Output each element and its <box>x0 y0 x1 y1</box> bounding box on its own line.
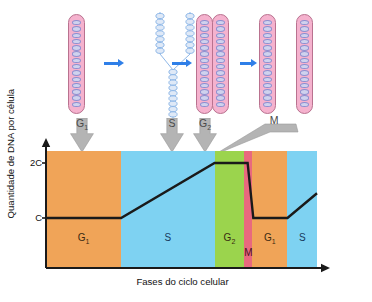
chromosome-g1 <box>68 14 85 114</box>
dna-bead <box>200 64 209 69</box>
dna-helix <box>72 20 81 108</box>
dna-bead <box>300 20 309 25</box>
dna-bead <box>200 26 209 31</box>
dna-bead <box>263 45 272 50</box>
dna-bead <box>200 70 209 75</box>
dna-bead <box>200 51 209 56</box>
dna-bead <box>300 102 309 107</box>
chromosome-m-b <box>296 14 313 114</box>
dna-bead <box>72 51 81 56</box>
dna-bead <box>263 89 272 94</box>
band-label-band-g2: G2 <box>213 232 245 245</box>
dna-bead <box>216 51 225 56</box>
dna-bead <box>216 70 225 75</box>
y-tick-label-0: 2C <box>18 157 42 168</box>
dna-bead <box>200 77 209 82</box>
y-tick-label-1: C <box>18 212 42 223</box>
pointer-label-g1-chromosome: G1 <box>68 117 96 131</box>
dna-bead <box>263 39 272 44</box>
dna-bead <box>263 33 272 38</box>
dna-bead <box>200 39 209 44</box>
dna-bead <box>72 58 81 63</box>
band-s-second <box>287 151 317 268</box>
band-label-band-m: M <box>232 247 264 258</box>
dna-bead <box>300 77 309 82</box>
dna-bead <box>216 77 225 82</box>
dna-bead <box>216 95 225 100</box>
dna-bead <box>263 58 272 63</box>
dna-helix <box>263 20 272 108</box>
dna-bead <box>72 77 81 82</box>
dna-helix <box>300 20 309 108</box>
dna-bead <box>200 45 209 50</box>
dna-bead <box>72 64 81 69</box>
dna-bead <box>72 70 81 75</box>
dna-bead <box>263 83 272 88</box>
dna-bead <box>72 26 81 31</box>
dna-bead <box>200 89 209 94</box>
band-label-band-s-first: S <box>152 232 184 243</box>
dna-bead <box>300 26 309 31</box>
dna-bead <box>263 26 272 31</box>
dna-bead <box>263 64 272 69</box>
band-g1-first <box>46 151 121 268</box>
dna-bead <box>263 51 272 56</box>
dna-bead <box>72 102 81 107</box>
dna-bead <box>216 58 225 63</box>
dna-bead <box>300 33 309 38</box>
dna-bead <box>263 102 272 107</box>
y-axis-label: Quantidade de DNA por célula <box>5 97 16 219</box>
x-axis-label: Fases do ciclo celular <box>45 276 320 287</box>
chromosome-g2-a <box>196 14 213 114</box>
band-label-band-s-second: S <box>286 232 318 243</box>
dna-helix <box>216 20 225 108</box>
dna-bead <box>72 20 81 25</box>
band-s-first <box>121 151 214 268</box>
band-label-band-g1-second: G1 <box>254 232 286 245</box>
dna-bead <box>300 64 309 69</box>
dna-bead <box>200 95 209 100</box>
dna-helix <box>200 20 209 108</box>
dna-bead <box>300 58 309 63</box>
dna-bead <box>72 45 81 50</box>
dna-bead <box>216 89 225 94</box>
dna-bead <box>263 20 272 25</box>
dna-bead <box>216 83 225 88</box>
dna-bead <box>300 95 309 100</box>
dna-bead <box>216 102 225 107</box>
dna-bead <box>300 83 309 88</box>
pointer-label-s-replication-fork: S <box>158 117 186 129</box>
chromosome-m-a <box>259 14 276 114</box>
dna-bead <box>216 26 225 31</box>
dna-bead <box>216 45 225 50</box>
band-label-band-g1-first: G1 <box>68 232 100 245</box>
dna-bead <box>200 20 209 25</box>
dna-bead <box>200 33 209 38</box>
pointer-label-m-separated-chromosomes: M <box>262 114 286 126</box>
dna-bead <box>263 95 272 100</box>
dna-bead <box>263 70 272 75</box>
dna-bead <box>72 95 81 100</box>
dna-bead <box>72 33 81 38</box>
dna-bead <box>216 39 225 44</box>
dna-bead <box>72 89 81 94</box>
dna-bead <box>72 83 81 88</box>
dna-bead <box>300 51 309 56</box>
dna-bead <box>72 39 81 44</box>
dna-bead <box>263 77 272 82</box>
dna-bead <box>300 45 309 50</box>
chromosome-g2-b <box>212 14 229 114</box>
dna-bead <box>216 64 225 69</box>
dna-bead <box>300 39 309 44</box>
dna-bead <box>300 70 309 75</box>
dna-bead <box>200 83 209 88</box>
dna-bead <box>216 20 225 25</box>
dna-bead <box>300 89 309 94</box>
dna-bead <box>200 58 209 63</box>
dna-bead <box>200 102 209 107</box>
cell-cycle-figure: OSVALDO SANCHES SEQUETIN G1SG2M G1SG2MG1… <box>0 0 372 302</box>
dna-bead <box>216 33 225 38</box>
